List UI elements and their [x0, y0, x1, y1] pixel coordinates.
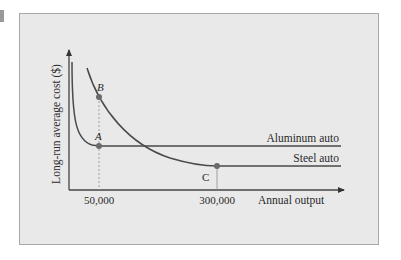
point-a: [96, 143, 102, 149]
label-b: B: [97, 81, 104, 93]
label-c: C: [202, 171, 209, 183]
point-b: [96, 94, 102, 100]
point-c: [214, 163, 220, 169]
steel-auto-label: Steel auto: [293, 152, 339, 164]
tick-50000: 50,000: [84, 194, 115, 206]
x-axis-label: Annual output: [258, 194, 325, 207]
aluminum-auto-label: Aluminum auto: [266, 132, 339, 144]
tick-300000: 300,000: [199, 194, 235, 206]
label-a: A: [94, 130, 102, 142]
y-axis-label: Long-run average cost ($): [50, 64, 63, 184]
cost-curve-diagram: B A C Aluminum auto Steel auto 50,000 30…: [0, 0, 401, 260]
